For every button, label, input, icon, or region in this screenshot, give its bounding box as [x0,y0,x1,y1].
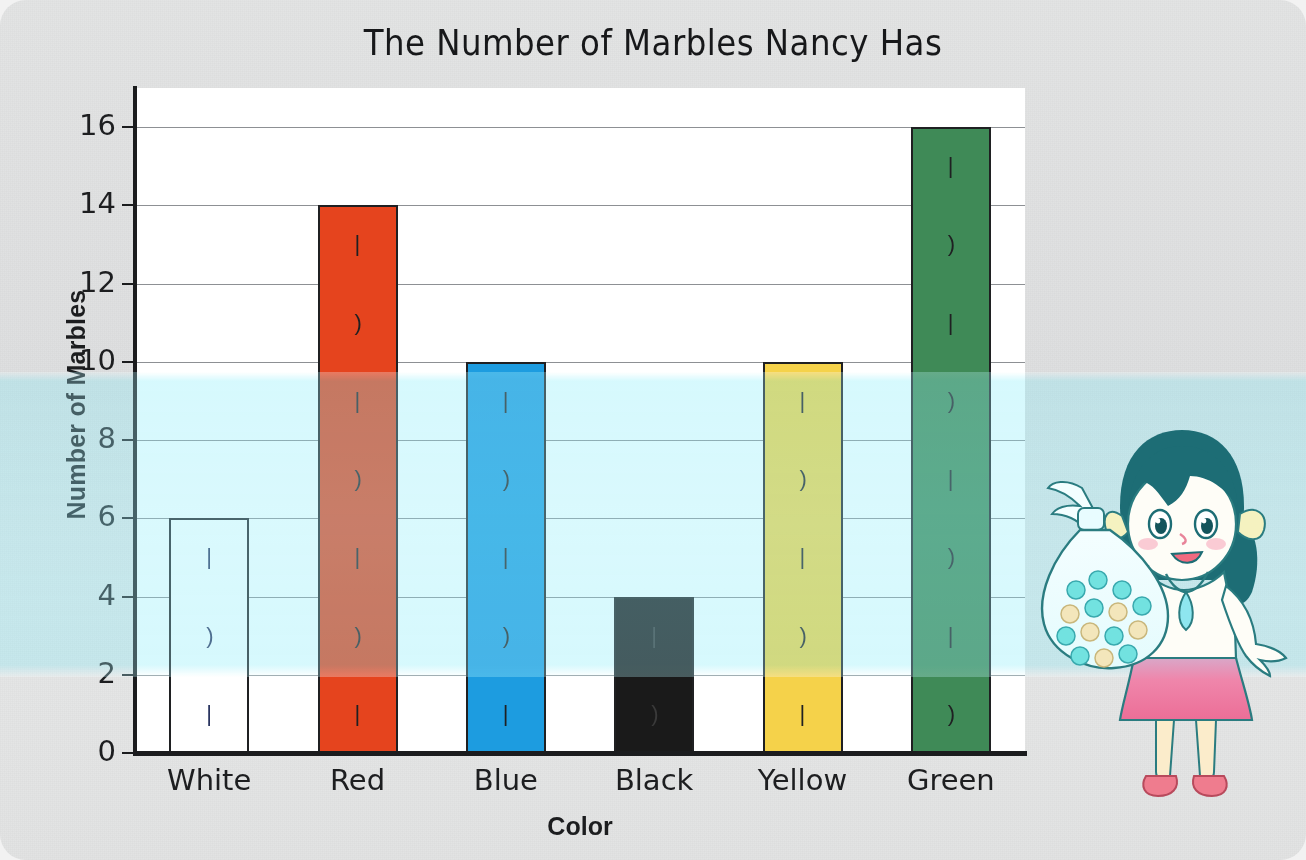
tally-mark: | [355,703,361,725]
gridline [135,597,1025,598]
gridline [135,440,1025,441]
tally-mark: ) [948,703,954,725]
tally-mark: ) [948,233,954,255]
x-tick-label-blue: Blue [421,763,591,797]
cheek-left [1138,538,1158,550]
tally-mark: | [651,625,657,647]
bow-right [1238,510,1265,539]
tally-mark: ) [800,625,806,647]
tally-mark: | [355,546,361,568]
y-tick-label: 16 [56,108,116,142]
skirt [1120,658,1252,720]
leg-left [1156,720,1174,779]
x-axis-line [133,751,1027,756]
tally-mark: | [948,625,954,647]
y-tick-label: 14 [56,186,116,220]
tally-mark: | [355,390,361,412]
cheek-right [1206,538,1226,550]
tally-mark: | [206,546,212,568]
tally-mark: | [800,546,806,568]
leg-right [1196,720,1216,779]
y-tick-label: 4 [56,578,116,612]
tally-mark: ) [355,468,361,490]
bar-blue: |)|)| [466,362,546,753]
tally-mark: | [206,703,212,725]
tally-mark: ) [206,625,212,647]
plot-area [135,88,1025,753]
x-tick-label-yellow: Yellow [718,763,888,797]
girl-illustration-svg [1040,420,1296,810]
bar-black: |) [614,597,694,753]
bar-yellow: |)|)| [763,362,843,753]
y-tick-label: 2 [56,656,116,690]
tally-mark: ) [355,312,361,334]
eye-glint-right [1202,519,1207,524]
tally-mark: ) [948,546,954,568]
tally-mark: | [948,312,954,334]
tally-mark: ) [503,625,509,647]
tally-mark: ) [355,625,361,647]
tally-mark: | [355,233,361,255]
bar-red: |)|)|)| [318,205,398,753]
bar-green: |)|)|)|) [911,127,991,753]
shoe-right [1193,776,1227,796]
x-tick-label-black: Black [569,763,739,797]
y-tick-label: 0 [56,734,116,768]
tally-mark: | [948,468,954,490]
gridline [135,362,1025,363]
bag-neck [1078,508,1104,530]
y-axis-line [133,86,137,755]
tally-mark: | [800,390,806,412]
tally-mark: | [948,155,954,177]
gridline [135,675,1025,676]
gridline [135,205,1025,206]
tally-mark: ) [503,468,509,490]
tally-mark: ) [651,703,657,725]
x-tick-label-red: Red [273,763,443,797]
x-axis-title: Color [135,812,1025,841]
girl-with-marble-bag-illustration [1040,420,1296,810]
x-tick-label-white: White [124,763,294,797]
tally-mark: | [800,703,806,725]
chart-page: The Number of Marbles Nancy Has 02468101… [0,0,1306,860]
y-axis-title: Number of Marbles [62,285,91,525]
shoe-left [1143,776,1177,796]
tally-mark: | [503,703,509,725]
gridline [135,518,1025,519]
x-tick-label-green: Green [866,763,1036,797]
tally-mark: ) [800,468,806,490]
tally-mark: | [503,546,509,568]
tally-mark: | [503,390,509,412]
gridline [135,284,1025,285]
gridline [135,127,1025,128]
chart-title: The Number of Marbles Nancy Has [0,22,1306,63]
tally-mark: ) [948,390,954,412]
eye-glint-left [1156,519,1161,524]
bar-white: |)| [169,518,249,753]
